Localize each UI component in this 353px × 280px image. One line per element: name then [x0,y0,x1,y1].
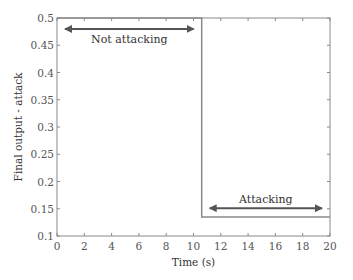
x-tick-label: 6 [136,240,143,252]
x-tick-label: 4 [108,240,115,252]
x-tick-label: 16 [269,240,283,252]
x-tick-label: 0 [54,240,61,252]
annotations: Not attackingAttacking [65,29,322,208]
y-tick-label: 0.5 [37,12,54,24]
y-axis-title: Final output - attack [12,72,24,181]
x-tick-label: 14 [241,240,255,252]
x-tick-label: 20 [323,240,336,252]
y-tick-label: 0.2 [37,176,54,188]
y-tick-label: 0.4 [37,67,54,79]
y-tick-label: 0.15 [31,203,54,215]
chart: 02468101214161820 0.10.150.20.250.30.350… [0,0,353,280]
annotation-label: Not attacking [91,33,168,46]
x-tick-label: 18 [296,240,309,252]
x-tick-label: 2 [81,240,88,252]
x-axis-title: Time (s) [172,256,215,268]
y-tick-label: 0.3 [37,121,54,133]
y-tick-label: 0.45 [31,39,54,51]
y-tick-label: 0.35 [31,94,54,106]
y-tick-label: 0.25 [31,148,54,160]
x-tick-label: 10 [187,240,200,252]
data-line [57,18,330,217]
y-tick-label: 0.1 [37,230,54,242]
x-tick-label: 12 [214,240,227,252]
x-tick-label: 8 [163,240,170,252]
annotation-label: Attacking [238,193,293,206]
